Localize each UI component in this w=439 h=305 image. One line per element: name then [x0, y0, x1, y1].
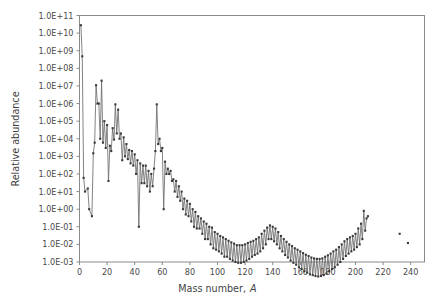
data-point [145, 165, 147, 167]
plot-frame [80, 16, 425, 263]
data-point [272, 226, 274, 228]
data-point [290, 260, 292, 262]
data-point [110, 150, 112, 152]
data-point [203, 220, 205, 222]
x-tick-label: 160 [293, 267, 308, 277]
data-point [136, 159, 138, 161]
data-point [328, 270, 330, 272]
x-tick-label: 240 [403, 267, 418, 277]
data-point [207, 238, 209, 240]
data-point [330, 253, 332, 255]
data-point [185, 213, 187, 215]
y-tick-label: 1.0E+02 [38, 169, 73, 179]
data-point [308, 255, 310, 257]
data-point [291, 245, 293, 247]
data-point [175, 180, 177, 182]
data-point [364, 230, 366, 232]
data-point [294, 247, 296, 249]
data-point [343, 240, 345, 242]
data-point [164, 161, 166, 163]
data-point [226, 256, 228, 258]
data-point [91, 215, 93, 217]
chart-canvas: 1.0E+111.0E+101.0E+091.0E+081.0E+071.0E+… [0, 0, 439, 305]
data-point [287, 256, 289, 258]
y-tick-label: 1.0E+00 [38, 204, 73, 214]
y-tick-label: 1.0E+03 [38, 151, 73, 161]
x-tick-label: 20 [102, 267, 112, 277]
data-point [244, 243, 246, 245]
data-point [345, 255, 347, 257]
data-point [150, 173, 152, 175]
data-point [298, 266, 300, 268]
y-tick-label: 1.0E+04 [38, 134, 73, 144]
data-point [183, 198, 185, 200]
data-point [303, 270, 305, 272]
data-point [316, 258, 318, 260]
data-point [332, 250, 334, 252]
data-point [223, 256, 225, 258]
data-point [135, 173, 137, 175]
data-point [176, 196, 178, 198]
data-point [105, 147, 107, 149]
data-point [123, 136, 125, 138]
data-point [118, 138, 120, 140]
data-point [270, 238, 272, 240]
data-point [192, 208, 194, 210]
x-tick-label: 80 [185, 267, 195, 277]
data-point [174, 191, 176, 193]
data-point [250, 241, 252, 243]
data-point [125, 143, 127, 145]
data-point [80, 24, 82, 26]
data-point [221, 253, 223, 255]
data-point [197, 215, 199, 217]
data-point [277, 231, 279, 233]
data-point [247, 242, 249, 244]
data-point [327, 254, 329, 256]
data-point [117, 109, 119, 111]
data-point [190, 220, 192, 222]
data-point [361, 238, 363, 240]
x-tick-label: 60 [157, 267, 167, 277]
data-point [339, 261, 341, 263]
data-point [211, 227, 213, 229]
data-point [259, 250, 261, 252]
data-point [186, 200, 188, 202]
y-tick-label: 1.0E-02 [42, 239, 73, 249]
data-point [143, 182, 145, 184]
data-point [182, 208, 184, 210]
data-point [314, 275, 316, 277]
data-point [363, 210, 365, 212]
x-tick-label: 220 [375, 267, 390, 277]
data-point [252, 240, 254, 242]
data-point [313, 257, 315, 259]
data-point [266, 227, 268, 229]
data-point [214, 231, 216, 233]
data-point [356, 246, 358, 248]
data-point [157, 143, 159, 145]
data-point [168, 173, 170, 175]
x-axis-title-symbol: A [249, 283, 257, 294]
data-point [352, 235, 354, 237]
data-point [229, 258, 231, 260]
data-point [225, 238, 227, 240]
y-tick-label: 1.0E+05 [38, 116, 73, 126]
data-point [131, 150, 133, 152]
data-point [254, 254, 256, 256]
data-point [325, 273, 327, 275]
data-point [353, 249, 355, 251]
data-point [204, 238, 206, 240]
data-point [360, 223, 362, 225]
data-point [112, 127, 114, 129]
data-point [338, 246, 340, 248]
abundance-chart: 1.0E+111.0E+101.0E+091.0E+081.0E+071.0E+… [0, 0, 439, 305]
data-point [99, 138, 101, 140]
data-point [94, 142, 96, 144]
data-point [101, 80, 103, 82]
x-tick-label: 40 [130, 267, 140, 277]
data-point [208, 226, 210, 228]
data-point [265, 243, 267, 245]
data-point [179, 200, 181, 202]
data-point [341, 243, 343, 245]
y-tick-label: 1.0E-03 [42, 257, 73, 267]
data-point [216, 233, 218, 235]
